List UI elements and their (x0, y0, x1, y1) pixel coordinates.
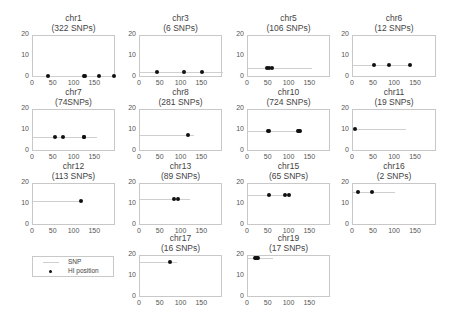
chromosome-label: chr7 (65, 87, 82, 97)
x-tick-label: 50 (258, 299, 278, 306)
y-tick-label: 10 (230, 51, 244, 58)
y-tick-label: 10 (122, 271, 136, 278)
x-tick-label: 0 (237, 299, 257, 306)
hi-position-marker (82, 135, 86, 139)
hi-position-marker (61, 135, 65, 139)
snp-range-line (33, 137, 97, 138)
y-tick-label: 10 (230, 271, 244, 278)
legend-entry-hi: HI position (33, 267, 113, 276)
chromosome-label: chr10 (278, 87, 299, 97)
x-tick-label: 50 (363, 153, 383, 160)
legend: SNP HI position (32, 256, 114, 277)
chromosome-label: chr3 (172, 13, 189, 23)
x-tick-label: 100 (171, 79, 191, 86)
y-tick-label: 10 (335, 125, 349, 132)
x-tick-label: 100 (64, 227, 84, 234)
chromosome-label: chr16 (383, 161, 404, 171)
hi-position-marker (182, 70, 186, 74)
legend-label-snp: SNP (68, 258, 81, 265)
subplot-title: chr13(89 SNPs) (119, 161, 242, 181)
y-tick-label: 0 (335, 72, 349, 79)
x-tick-label: 150 (405, 227, 425, 234)
snp-range-line (140, 199, 190, 200)
hi-position-marker (46, 74, 50, 78)
subplot-title: chr7(74SNPs) (12, 87, 135, 107)
subplot-title: chr11(19 SNPs) (332, 87, 456, 107)
chromosome-label: chr17 (170, 233, 191, 243)
y-tick-label: 10 (15, 199, 29, 206)
snp-count-label: (106 SNPs) (267, 23, 311, 33)
y-tick-label: 10 (15, 51, 29, 58)
hi-position-marker (83, 74, 87, 78)
plot-area (32, 183, 115, 225)
y-tick-label: 10 (335, 51, 349, 58)
chromosome-label: chr15 (278, 161, 299, 171)
hi-position-marker (267, 193, 271, 197)
y-tick-label: 20 (15, 178, 29, 185)
subplot-chr12: chr12(113 SNPs)01020050100150 (12, 161, 135, 243)
snp-range-line (33, 201, 81, 202)
y-tick-label: 0 (122, 72, 136, 79)
subplot-chr16: chr16(2 SNPs)01020050100150 (332, 161, 456, 243)
subplot-chr13: chr13(89 SNPs)01020050100150 (119, 161, 242, 243)
snp-count-label: (2 SNPs) (377, 171, 411, 181)
chromosome-label: chr12 (63, 161, 84, 171)
y-tick-label: 10 (122, 199, 136, 206)
x-tick-label: 150 (191, 299, 211, 306)
x-tick-label: 100 (279, 153, 299, 160)
snp-range-line (248, 258, 273, 259)
plot-area (32, 35, 115, 77)
plot-area (139, 183, 222, 225)
y-tick-label: 10 (122, 51, 136, 58)
subplot-chr11: chr11(19 SNPs)01020050100150 (332, 87, 456, 169)
snp-count-label: (113 SNPs) (52, 171, 95, 181)
hi-position-marker (283, 193, 287, 197)
x-tick-label: 0 (22, 227, 42, 234)
chromosome-label: chr11 (384, 87, 405, 97)
plot-area (139, 109, 222, 151)
subplot-chr6: chr6(12 SNPs)01020050100150 (332, 13, 456, 95)
x-tick-label: 150 (191, 79, 211, 86)
x-tick-label: 150 (299, 79, 319, 86)
y-tick-label: 20 (335, 178, 349, 185)
plot-area (139, 255, 222, 297)
snp-count-label: (281 SNPs) (159, 97, 203, 107)
y-tick-label: 0 (122, 220, 136, 227)
snp-count-label: (89 SNPs) (161, 171, 200, 181)
subplot-chr7: chr7(74SNPs)01020050100150 (12, 87, 135, 169)
subplot-title: chr19(17 SNPs) (227, 233, 350, 253)
snp-count-label: (19 SNPs) (374, 97, 413, 107)
y-tick-label: 20 (122, 250, 136, 257)
x-tick-label: 0 (22, 153, 42, 160)
hi-position-marker (372, 63, 376, 67)
y-tick-label: 20 (122, 104, 136, 111)
y-tick-label: 20 (230, 104, 244, 111)
hi-position-marker (267, 129, 271, 133)
y-tick-label: 10 (122, 125, 136, 132)
hi-position-marker (353, 127, 357, 131)
x-tick-label: 150 (405, 153, 425, 160)
plot-area (139, 35, 222, 77)
y-tick-label: 20 (335, 104, 349, 111)
x-tick-label: 0 (237, 79, 257, 86)
snp-range-line (353, 65, 412, 66)
hi-marker-icon (49, 270, 52, 273)
snp-range-line (248, 68, 312, 69)
x-tick-label: 150 (299, 153, 319, 160)
subplot-title: chr8(281 SNPs) (119, 87, 242, 107)
y-tick-label: 0 (15, 146, 29, 153)
y-tick-label: 20 (15, 30, 29, 37)
hi-position-marker (176, 197, 180, 201)
y-tick-label: 10 (15, 125, 29, 132)
y-tick-label: 20 (230, 250, 244, 257)
x-tick-label: 100 (279, 79, 299, 86)
subplot-chr17: chr17(16 SNPs)01020050100150 (119, 233, 242, 315)
hi-position-marker (186, 133, 190, 137)
hi-position-marker (112, 74, 116, 78)
y-tick-label: 10 (335, 199, 349, 206)
subplot-chr19: chr19(17 SNPs)01020050100150 (227, 233, 350, 315)
x-tick-label: 150 (405, 79, 425, 86)
y-tick-label: 0 (15, 72, 29, 79)
subplot-title: chr16(2 SNPs) (332, 161, 456, 181)
x-tick-label: 100 (384, 153, 404, 160)
